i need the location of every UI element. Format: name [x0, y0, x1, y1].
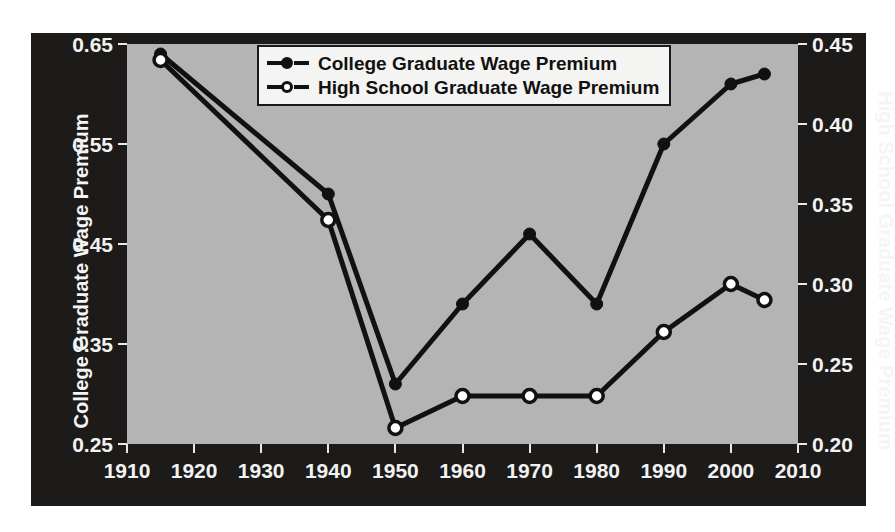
y-axis-right-title: High School Graduate Wage Premium	[876, 61, 895, 481]
data-point-filled	[322, 188, 334, 200]
x-axis-tick-mark	[193, 444, 195, 453]
data-point-open	[456, 390, 469, 403]
legend-label-college: College Graduate Wage Premium	[318, 54, 617, 73]
x-axis-tick-mark	[327, 444, 329, 453]
x-axis-tick-mark	[596, 444, 598, 453]
y-axis-right-tick-mark	[798, 43, 807, 45]
legend-item-high-school: High School Graduate Wage Premium	[267, 75, 659, 99]
x-axis-tick-label: 1980	[573, 460, 620, 481]
x-axis-tick-mark	[797, 444, 799, 453]
x-axis-tick-label: 1970	[506, 460, 553, 481]
x-axis-tick-mark	[730, 444, 732, 453]
x-axis-tick-mark	[394, 444, 396, 453]
y-axis-left-tick-mark	[118, 343, 127, 345]
data-point-open	[322, 214, 335, 227]
x-axis-tick-label: 1910	[104, 460, 151, 481]
y-axis-left-title: College Graduate Wage Premium	[71, 61, 91, 481]
y-axis-right-tick-mark	[798, 123, 807, 125]
series-line	[161, 60, 765, 428]
data-point-open	[154, 54, 167, 67]
x-axis-tick-label: 1940	[305, 460, 352, 481]
open-circle-marker-icon	[267, 78, 309, 96]
y-axis-left-tick-label: 0.45	[72, 234, 113, 255]
data-point-filled	[591, 298, 603, 310]
chart-figure: College Graduate Wage Premium High Schoo…	[0, 0, 895, 532]
y-axis-right-tick-mark	[798, 283, 807, 285]
x-axis-tick-mark	[529, 444, 531, 453]
x-axis-tick-label: 2000	[708, 460, 755, 481]
x-axis-tick-label: 1950	[372, 460, 419, 481]
y-axis-left-tick-mark	[118, 143, 127, 145]
x-axis-tick-label: 1960	[439, 460, 486, 481]
y-axis-right-tick-label: 0.35	[812, 194, 853, 215]
data-point-filled	[658, 138, 670, 150]
chart-panel: College Graduate Wage Premium High Schoo…	[31, 33, 866, 506]
x-axis-tick-mark	[462, 444, 464, 453]
filled-circle-marker-icon	[267, 54, 309, 72]
legend-label-high-school: High School Graduate Wage Premium	[318, 78, 659, 97]
data-point-open	[523, 390, 536, 403]
y-axis-left-tick-label: 0.35	[72, 334, 113, 355]
x-axis-tick-mark	[663, 444, 665, 453]
data-point-open	[657, 326, 670, 339]
data-point-open	[758, 294, 771, 307]
y-axis-right-tick-label: 0.30	[812, 274, 853, 295]
y-axis-left-tick-label: 0.65	[72, 34, 113, 55]
y-axis-left-tick-label: 0.55	[72, 134, 113, 155]
y-axis-right-tick-label: 0.40	[812, 114, 853, 135]
data-point-filled	[758, 68, 770, 80]
series-high-school	[154, 54, 771, 435]
data-point-filled	[725, 78, 737, 90]
data-point-open	[389, 422, 402, 435]
x-axis-tick-mark	[260, 444, 262, 453]
y-axis-left-tick-label: 0.25	[72, 434, 113, 455]
y-axis-right-tick-label: 0.25	[812, 354, 853, 375]
y-axis-right-tick-mark	[798, 363, 807, 365]
y-axis-left-tick-mark	[118, 43, 127, 45]
x-axis-tick-mark	[126, 444, 128, 453]
y-axis-right-tick-mark	[798, 443, 807, 445]
data-point-filled	[457, 298, 469, 310]
x-axis-tick-label: 1920	[171, 460, 218, 481]
chart-legend: College Graduate Wage Premium High Schoo…	[257, 45, 671, 106]
x-axis-tick-label: 1990	[640, 460, 687, 481]
x-axis-tick-label: 1930	[238, 460, 285, 481]
y-axis-right-tick-label: 0.20	[812, 434, 853, 455]
data-point-open	[590, 390, 603, 403]
x-axis-tick-label: 2010	[775, 460, 822, 481]
y-axis-right-tick-label: 0.45	[812, 34, 853, 55]
data-point-open	[724, 278, 737, 291]
y-axis-left-tick-mark	[118, 243, 127, 245]
data-point-filled	[524, 228, 536, 240]
y-axis-right-tick-mark	[798, 203, 807, 205]
legend-item-college: College Graduate Wage Premium	[267, 51, 659, 75]
data-point-filled	[389, 378, 401, 390]
